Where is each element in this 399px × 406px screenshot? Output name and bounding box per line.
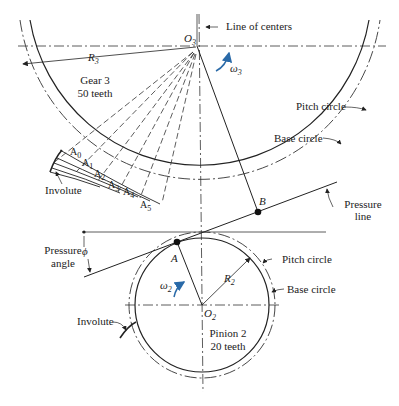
label-A3: A3 [108, 180, 119, 193]
label-pinion-teeth: 20 teeth [200, 341, 256, 352]
label-omega2: ω2 [160, 280, 172, 294]
label-gear-teeth: 50 teeth [68, 88, 122, 99]
label-gear-name: Gear 3 [70, 75, 120, 86]
label-O3: O3 [184, 33, 196, 47]
label-A2: A2 [94, 169, 105, 182]
label-point-B: B [259, 196, 266, 207]
label-point-A: A [171, 253, 178, 264]
label-pinion-base-circle: Base circle [287, 284, 336, 295]
contact-point-A [174, 239, 181, 246]
label-pinion-name: Pinion 2 [200, 328, 256, 339]
label-gear-pitch-circle: Pitch circle [296, 101, 346, 112]
label-phi: ϕ [82, 246, 88, 257]
label-R3: R3 [88, 52, 99, 66]
label-pinion-involute: Involute [77, 316, 114, 327]
label-A5: A5 [140, 200, 151, 213]
omega3-arrow [216, 53, 229, 71]
label-gear-involute: Involute [45, 185, 82, 196]
contact-point-B [255, 209, 262, 216]
label-A0: A0 [70, 147, 81, 160]
label-pressure-line-1: Pressure [338, 199, 388, 210]
label-pressure-line-2: line [338, 211, 388, 222]
label-A4: A4 [123, 187, 134, 200]
label-pinion-pitch-circle: Pitch circle [282, 254, 332, 265]
pinion-line-O2-A [177, 242, 202, 305]
omega2-arrow [174, 282, 184, 297]
gear-radius-line [23, 47, 196, 64]
label-gear-base-circle: Base circle [274, 133, 323, 144]
label-A1: A1 [82, 158, 93, 171]
gear-mesh-diagram: O3 Line of centers R3 ω3 Gear 3 50 teeth… [0, 0, 399, 406]
label-omega3: ω3 [230, 63, 242, 77]
label-pressure-angle-1: Pressure [38, 245, 88, 256]
label-R2: R2 [224, 273, 235, 287]
gear-line-O3-B [197, 46, 258, 212]
label-pressure-angle-2: angle [38, 258, 88, 269]
label-line-of-centers: Line of centers [226, 21, 292, 32]
label-O2: O2 [204, 308, 216, 322]
